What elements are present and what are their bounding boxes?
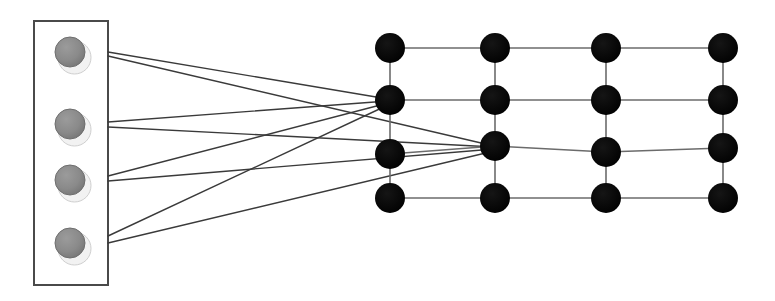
mapping-edges-group [108, 52, 494, 243]
lattice-node[interactable]: R4C1 [375, 183, 405, 213]
lattice-node[interactable]: R2C4 [708, 85, 738, 115]
lattice-node[interactable]: R2C1 [375, 85, 405, 115]
source-node-body [55, 109, 85, 139]
lattice-node[interactable]: R3C4 [708, 133, 738, 163]
lattice-links-group [390, 48, 723, 198]
lattice-node[interactable]: R2C2 [480, 85, 510, 115]
lattice-node[interactable]: R4C3 [591, 183, 621, 213]
diagram-canvas: Bipartite mapping from a source module t… [0, 0, 775, 301]
lattice-node[interactable]: R1C1 [375, 33, 405, 63]
lattice-link [495, 146, 606, 152]
lattice-nodes-group: R1C1R1C2R1C3R1C4R2C1R2C2R2C3R2C4R3C1R3C2… [375, 33, 738, 213]
lattice-node[interactable]: R2C3 [591, 85, 621, 115]
mapping-edge [108, 127, 494, 147]
lattice-link [606, 148, 723, 152]
lattice-node[interactable]: R4C2 [480, 183, 510, 213]
lattice-node[interactable]: R3C3 [591, 137, 621, 167]
lattice-node[interactable]: R3C1 [375, 139, 405, 169]
source-node-body [55, 228, 85, 258]
source-node-body [55, 165, 85, 195]
mapping-edge [108, 56, 494, 146]
mapping-edge [108, 105, 388, 236]
lattice-node[interactable]: R4C4 [708, 183, 738, 213]
lattice-node[interactable]: R3C2 [480, 131, 510, 161]
mapping-edge [108, 52, 388, 99]
source-node-body [55, 37, 85, 67]
lattice-node[interactable]: R1C4 [708, 33, 738, 63]
lattice-node[interactable]: R1C3 [591, 33, 621, 63]
diagram-svg: S1S2S3S4 R1C1R1C2R1C3R1C4R2C1R2C2R2C3R2C… [0, 0, 775, 301]
lattice-node[interactable]: R1C2 [480, 33, 510, 63]
